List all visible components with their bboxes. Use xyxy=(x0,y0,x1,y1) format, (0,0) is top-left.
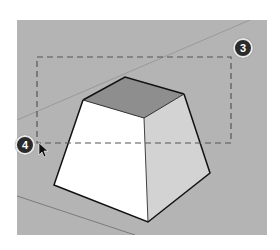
pyramid-right-face[interactable] xyxy=(144,94,210,222)
callout-badge-3: 3 xyxy=(233,38,253,58)
scene-canvas[interactable] xyxy=(17,20,267,235)
cursor-arrow-icon xyxy=(39,143,48,157)
modeling-viewport[interactable] xyxy=(17,20,267,235)
callout-badge-4: 4 xyxy=(15,135,35,155)
